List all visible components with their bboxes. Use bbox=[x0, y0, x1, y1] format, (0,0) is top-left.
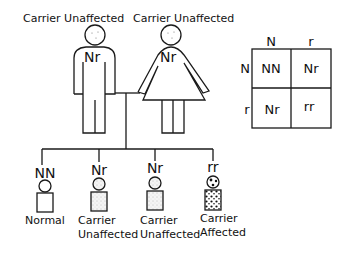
child-genotype: Nr bbox=[147, 160, 163, 176]
child-body-icon bbox=[91, 192, 107, 211]
child-label-line2: Unaffected bbox=[140, 228, 200, 241]
child-body-icon bbox=[37, 193, 53, 212]
mother-status-label: Carrier Unaffected bbox=[133, 12, 234, 25]
punnett-cell: Nr bbox=[264, 102, 280, 117]
punnett-square: N r N r NN Nr Nr rr bbox=[240, 34, 331, 128]
punnett-col-header: r bbox=[308, 34, 314, 49]
punnett-cell: rr bbox=[304, 99, 315, 114]
child-body-icon bbox=[205, 190, 221, 210]
child-2: Nr Carrier Unaffected bbox=[78, 162, 138, 241]
child-1: NN Normal bbox=[25, 165, 65, 227]
child-label-line2: Affected bbox=[200, 226, 246, 239]
child-3: Nr Carrier Unaffected bbox=[140, 160, 200, 241]
child-label-line2: Unaffected bbox=[78, 228, 138, 241]
punnett-row-header: r bbox=[244, 102, 250, 117]
child-drop-lines bbox=[42, 149, 213, 165]
child-label: Normal bbox=[25, 214, 65, 227]
father-head-icon bbox=[85, 25, 105, 45]
child-head-icon bbox=[39, 180, 51, 192]
child-label-line1: Carrier bbox=[200, 212, 238, 225]
father-status-label: Carrier Unaffected bbox=[23, 12, 124, 25]
punnett-col-header: N bbox=[266, 34, 276, 49]
child-genotype: NN bbox=[35, 165, 56, 181]
child-genotype: rr bbox=[207, 159, 219, 175]
child-head-icon bbox=[149, 177, 161, 189]
mother-head-icon bbox=[161, 25, 181, 45]
child-label-line1: Carrier bbox=[78, 214, 116, 227]
child-4: rr Carrier Affected bbox=[200, 159, 246, 239]
punnett-cell: Nr bbox=[303, 61, 319, 76]
mother-genotype: Nr bbox=[160, 49, 176, 65]
punnett-cell: NN bbox=[261, 61, 280, 76]
father-figure: Nr bbox=[74, 25, 115, 133]
child-genotype: Nr bbox=[91, 162, 107, 178]
punnett-row-header: N bbox=[240, 61, 250, 76]
child-body-icon bbox=[147, 191, 163, 210]
pedigree-diagram: Carrier Unaffected Carrier Unaffected Nr… bbox=[0, 0, 348, 253]
father-genotype: Nr bbox=[84, 49, 100, 65]
child-label-line1: Carrier bbox=[140, 214, 178, 227]
mother-figure: Nr bbox=[138, 25, 209, 133]
child-head-icon bbox=[93, 178, 105, 190]
